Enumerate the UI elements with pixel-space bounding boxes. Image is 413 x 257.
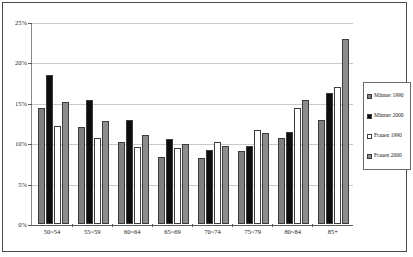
bar-group [233,23,273,224]
y-axis-tick-label: 15% [15,101,27,108]
bar [318,120,325,224]
bar [38,108,45,224]
y-axis-tick [28,63,32,64]
bar [166,139,173,224]
bar [134,147,141,224]
x-axis-tick [192,224,193,227]
bar [54,126,61,224]
x-axis-tick [112,224,113,227]
bar [46,75,53,224]
bar [78,127,85,224]
x-axis-labels: 50~5455~5960~6465~6970~7475~7980~8485+ [32,229,353,236]
y-axis-tick [28,104,32,105]
chart-frame: 0%5%10%15%20%25% 50~5455~5960~6465~6970~… [2,2,407,252]
bar [174,148,181,224]
bar [158,157,165,224]
bar [302,100,309,224]
bar [206,150,213,224]
x-axis-label: 70~74 [193,229,233,236]
x-axis-label: 60~64 [112,229,152,236]
bar [126,120,133,224]
bar-group [33,23,73,224]
y-axis-tick-label: 0% [18,222,27,229]
bar [254,130,261,224]
bar [214,142,221,224]
y-axis-tick-label: 25% [15,20,27,27]
y-axis-tick-label: 10% [15,141,27,148]
bar-group [73,23,113,224]
legend-item[interactable]: Männer 1990 [366,93,408,99]
bar [262,133,269,224]
bar [86,100,93,224]
x-axis-tick [272,224,273,227]
legend-item[interactable]: Männer 2000 [366,113,408,119]
bars-layer [33,23,353,224]
legend-label: Männer 1990 [374,93,403,99]
bar-group [193,23,233,224]
legend-label: Männer 2000 [374,113,403,119]
x-axis-tick [72,224,73,227]
plot-area: 0%5%10%15%20%25% [31,23,353,226]
bar [278,138,285,224]
y-axis-tick [28,144,32,145]
legend-swatch-icon [367,134,372,139]
x-axis-tick [232,224,233,227]
bar [102,121,109,224]
legend-swatch-icon [367,94,372,99]
y-axis-tick [28,185,32,186]
y-axis-tick [28,225,32,226]
bar [94,138,101,224]
legend-item[interactable]: Frauen 1990 [366,133,408,139]
chart-legend: Männer 1990Männer 2000Frauen 1990Frauen … [363,82,411,170]
bar [334,87,341,224]
x-axis-label: 55~59 [72,229,112,236]
bar [62,102,69,224]
legend-swatch-icon [367,114,372,119]
bar [294,108,301,224]
x-axis-label: 85+ [313,229,353,236]
bar [238,151,245,224]
legend-label: Frauen 2000 [374,153,402,159]
bar-group [113,23,153,224]
x-axis-label: 65~69 [152,229,192,236]
bar-group [153,23,193,224]
x-axis-label: 80~84 [273,229,313,236]
bar [286,132,293,224]
legend-item[interactable]: Frauen 2000 [366,153,408,159]
y-axis-tick [28,23,32,24]
bar [198,158,205,224]
bar [142,135,149,224]
y-axis-tick-label: 20% [15,60,27,67]
x-axis-tick [152,224,153,227]
bar [326,93,333,224]
legend-swatch-icon [367,154,372,159]
bar-group [273,23,313,224]
bar [246,146,253,224]
bar [182,144,189,224]
bar-group [313,23,353,224]
bar [222,146,229,224]
y-axis-tick-label: 5% [18,181,27,188]
legend-label: Frauen 1990 [374,133,402,139]
x-axis-tick [312,224,313,227]
bar [342,39,349,224]
bar [118,142,125,224]
x-axis-label: 50~54 [32,229,72,236]
x-axis-label: 75~79 [233,229,273,236]
